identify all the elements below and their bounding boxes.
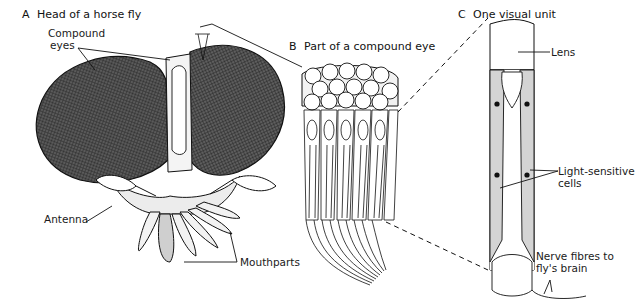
- label-mouthparts: Mouthparts: [240, 256, 300, 268]
- label-nerve-fibres: Nerve fibres to fly's brain: [536, 250, 614, 274]
- label-light-sensitive-line1: Light-sensitive: [558, 165, 635, 177]
- panel-a-title: AHead of a horse fly: [22, 8, 141, 21]
- right-compound-eye: [188, 45, 284, 175]
- horse-fly-head: [36, 34, 284, 262]
- label-compound-eyes: Compound eyes: [48, 27, 105, 51]
- left-compound-eye: [36, 57, 168, 183]
- compound-eye-section: [302, 63, 398, 285]
- panel-b-title: BPart of a compound eye: [289, 40, 435, 53]
- label-compound-eyes-line2: eyes: [48, 39, 105, 51]
- panel-b-letter: B: [289, 40, 304, 53]
- panel-a-title-text: Head of a horse fly: [37, 8, 141, 21]
- label-antenna: Antenna: [44, 213, 88, 225]
- panel-c-letter: C: [458, 8, 473, 21]
- label-light-sensitive-cells: Light-sensitive cells: [558, 165, 635, 189]
- label-nerve-line1: Nerve fibres to: [536, 250, 614, 262]
- panel-c-title-text: One visual unit: [473, 8, 556, 21]
- label-compound-eyes-line1: Compound: [48, 27, 105, 39]
- label-lens: Lens: [551, 46, 575, 58]
- panel-c-title: COne visual unit: [458, 8, 556, 21]
- nerve-fibres-leader: [544, 280, 552, 294]
- antenna-leader: [86, 206, 112, 222]
- panel-a-letter: A: [22, 8, 37, 21]
- connector-b-to-c-bottom: [386, 222, 488, 270]
- panel-b-title-text: Part of a compound eye: [304, 40, 435, 53]
- label-light-sensitive-line2: cells: [558, 177, 635, 189]
- connector-b-to-c-top: [398, 18, 488, 112]
- label-nerve-line2: fly's brain: [536, 262, 614, 274]
- lens-shape: [490, 20, 534, 71]
